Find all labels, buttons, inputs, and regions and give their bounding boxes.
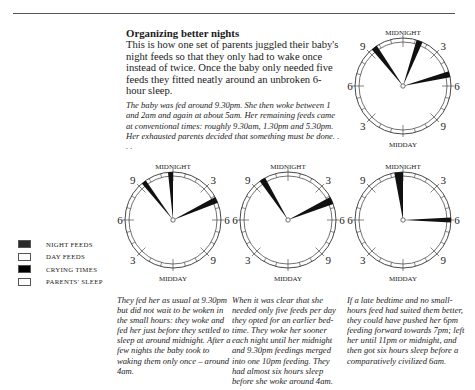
clock-alternative: MIDNIGHTMIDDAY669339: [343, 154, 467, 290]
svg-text:6: 6: [347, 80, 353, 92]
top-rule: [13, 13, 455, 14]
svg-text:3: 3: [360, 254, 366, 266]
svg-text:6: 6: [347, 214, 353, 226]
svg-text:9: 9: [441, 120, 447, 132]
svg-text:3: 3: [211, 174, 217, 186]
svg-text:9: 9: [211, 254, 217, 266]
svg-text:9: 9: [360, 40, 366, 52]
clock-step-2: MIDNIGHTMIDDAY669339: [228, 154, 352, 290]
svg-text:9: 9: [441, 254, 447, 266]
clock-original: MIDNIGHTMIDDAY669339: [343, 20, 467, 156]
svg-text:MIDNIGHT: MIDNIGHT: [270, 163, 306, 171]
svg-text:6: 6: [117, 214, 123, 226]
intro-text: This is how one set of parents juggled t…: [126, 39, 341, 97]
legend: NIGHT FEEDS DAY FEEDS CRYING TIMES PAREN…: [18, 238, 103, 288]
parents-sleep-swatch: [18, 278, 31, 286]
legend-item-day-feeds: DAY FEEDS: [18, 251, 103, 264]
crying-times-swatch: [18, 265, 31, 273]
svg-text:MIDDAY: MIDDAY: [389, 141, 417, 149]
svg-text:9: 9: [326, 254, 332, 266]
svg-text:3: 3: [130, 254, 136, 266]
story-text: The baby was fed around 9.30pm. She then…: [126, 100, 341, 151]
svg-text:3: 3: [245, 254, 251, 266]
caption-step-1: They fed her as usual at 9.30pm but did …: [117, 295, 235, 376]
svg-text:3: 3: [326, 174, 332, 186]
svg-text:3: 3: [441, 40, 447, 52]
caption-step-2: When it was clear that she needed only f…: [232, 295, 344, 386]
intro-block: Organizing better nights This is how one…: [126, 27, 341, 97]
svg-text:MIDDAY: MIDDAY: [274, 275, 302, 283]
svg-text:MIDDAY: MIDDAY: [389, 275, 417, 283]
legend-item-crying-times: CRYING TIMES: [18, 263, 103, 276]
day-feeds-swatch: [18, 253, 31, 261]
svg-text:9: 9: [360, 174, 366, 186]
svg-text:MIDNIGHT: MIDNIGHT: [385, 163, 421, 171]
section-title: Organizing better nights: [126, 27, 341, 39]
svg-text:9: 9: [130, 174, 136, 186]
svg-text:MIDNIGHT: MIDNIGHT: [155, 163, 191, 171]
svg-text:6: 6: [454, 214, 460, 226]
svg-text:6: 6: [232, 214, 238, 226]
legend-item-parents-sleep: PARENTS' SLEEP: [18, 276, 103, 289]
clock-step-1: MIDNIGHTMIDDAY669339: [113, 154, 237, 290]
svg-text:3: 3: [360, 120, 366, 132]
caption-alternative: If a late bedtime and no small-hours fee…: [347, 295, 472, 366]
svg-text:MIDDAY: MIDDAY: [159, 275, 187, 283]
svg-text:MIDNIGHT: MIDNIGHT: [385, 29, 421, 37]
legend-item-night-feeds: NIGHT FEEDS: [18, 238, 103, 251]
svg-text:3: 3: [441, 174, 447, 186]
svg-text:9: 9: [245, 174, 251, 186]
night-feeds-swatch: [18, 240, 31, 248]
svg-text:6: 6: [454, 80, 460, 92]
